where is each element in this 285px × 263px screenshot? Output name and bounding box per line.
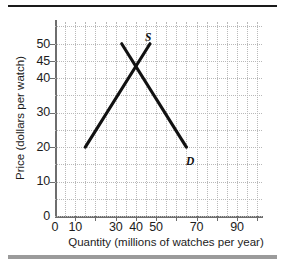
plot-area: [55, 22, 262, 216]
x-tick-label-10: 10: [62, 220, 88, 234]
x-tick-label-70: 70: [184, 220, 210, 234]
y-tick-label-45: 45: [24, 54, 50, 68]
y-tick-label-10: 10: [24, 174, 50, 188]
x-axis-title: Quantity (millions of watches per year): [55, 236, 277, 248]
x-tick-label-50: 50: [143, 220, 169, 234]
y-tick-label-30: 30: [24, 105, 50, 119]
y-tick-label-50: 50: [24, 37, 50, 51]
demand-curve-label: D: [186, 155, 194, 167]
gridline-h-0: [55, 216, 262, 217]
x-tick-label-90: 90: [224, 220, 250, 234]
supply-demand-curves: [55, 22, 262, 216]
x-tick-80: [217, 216, 218, 221]
y-tick-label-20: 20: [24, 140, 50, 154]
top-rule-divider: [8, 5, 277, 7]
y-axis-title: Price (dollars per watch): [14, 23, 26, 213]
supply-curve-label: S: [145, 31, 151, 43]
figure-container: 0 10 20 30 40 45 50 0 10 30 40 50 70 90 …: [0, 0, 285, 263]
demand-curve: [122, 44, 187, 147]
bottom-rule-divider: [8, 255, 277, 259]
supply-curve: [85, 44, 150, 147]
x-tick-60: [176, 216, 177, 221]
x-tick-100: [257, 216, 258, 221]
x-tick-20: [95, 216, 96, 221]
y-tick-label-40: 40: [24, 71, 50, 85]
